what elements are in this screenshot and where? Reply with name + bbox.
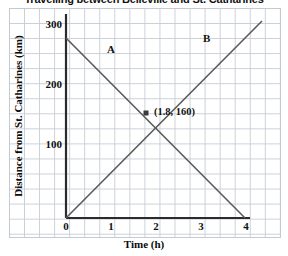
series-label-a: A <box>107 43 115 55</box>
x-tick-4: 4 <box>237 220 255 232</box>
intersection-marker <box>144 111 149 116</box>
x-tick-2: 2 <box>147 220 165 232</box>
y-tick-300: 300 <box>34 18 62 30</box>
x-tick-3: 3 <box>192 220 210 232</box>
plot-area <box>0 0 288 256</box>
intersection-annotation: (1.8, 160) <box>154 106 195 117</box>
x-tick-0: 0 <box>57 220 75 232</box>
y-tick-100: 100 <box>34 138 62 150</box>
series-line-b <box>66 21 262 218</box>
chart-figure: Travelling between Belleville and St. Ca… <box>0 0 288 256</box>
y-axis-label: Distance from St. Catharines (km) <box>12 26 24 206</box>
x-tick-1: 1 <box>102 220 120 232</box>
y-tick-200: 200 <box>34 78 62 90</box>
x-axis-label: Time (h) <box>0 238 288 250</box>
series-label-b: B <box>203 32 210 44</box>
